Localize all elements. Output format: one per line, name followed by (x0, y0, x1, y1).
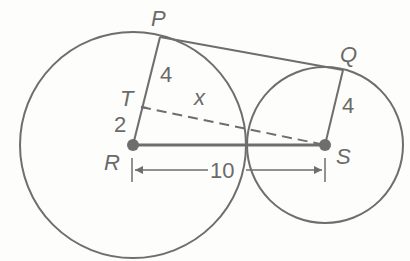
dim-arrow-left-icon (135, 166, 143, 174)
label-t: T (120, 86, 135, 111)
geometry-diagram: P Q T R S 4 2 4 x 10 (0, 0, 410, 261)
label-qs-length: 4 (342, 93, 354, 118)
dim-arrow-right-icon (314, 166, 322, 174)
label-r: R (104, 150, 120, 175)
point-s (319, 139, 331, 151)
label-s: S (336, 144, 351, 169)
label-pt-length: 4 (160, 62, 172, 87)
t-tick (141, 107, 147, 108)
point-r (127, 139, 139, 151)
label-rs-length: 10 (210, 158, 234, 183)
tangent-pq (160, 37, 343, 70)
radius-rp (133, 37, 160, 145)
label-ts-x: x (193, 85, 206, 110)
label-p: P (151, 6, 166, 31)
label-q: Q (340, 42, 357, 67)
radius-sq (325, 70, 343, 145)
label-tr-length: 2 (114, 112, 126, 137)
segment-ts-dashed (141, 107, 325, 145)
diagram-svg: P Q T R S 4 2 4 x 10 (0, 0, 410, 261)
